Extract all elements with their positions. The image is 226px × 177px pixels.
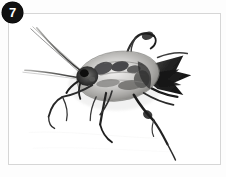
panel-number-badge: 7 [2,2,23,23]
figure-panel: 7 [0,0,226,177]
panel-number-label: 7 [2,2,23,23]
image-frame [8,13,221,165]
insect-specimen-photo [9,14,220,164]
